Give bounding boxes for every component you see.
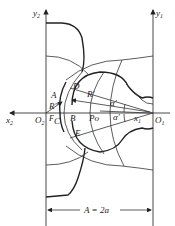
O1-label: O1 — [155, 115, 165, 126]
gear-mesh-diagram: y2 y1 x2 x1 O2 O1 A R″ F C B D E Po R′ α… — [0, 0, 175, 226]
alpha-lower-arc — [124, 114, 125, 122]
x2-label: x2 — [5, 115, 13, 126]
alpha-lower-label: α′ — [113, 112, 121, 122]
ray-O1-E — [70, 113, 153, 138]
dimension-label: A = 2a — [83, 205, 109, 215]
point-A-label: A — [50, 90, 57, 100]
right-small-arc — [126, 84, 153, 104]
y2-label: y2 — [32, 8, 40, 19]
point-C-label: C — [54, 116, 61, 126]
right-gear-upper-arc — [66, 56, 153, 80]
left-gear-upper-tooth — [46, 23, 84, 72]
R-double-prime-label: R″ — [48, 101, 58, 111]
x1-label: x1 — [133, 113, 141, 124]
O2-label: O2 — [35, 115, 45, 126]
y1-label: y1 — [155, 8, 163, 19]
R-prime-label: R′ — [86, 89, 95, 99]
point-D-label: D — [72, 81, 80, 91]
point-Po-label: Po — [88, 113, 99, 123]
alpha-upper-label: α′ — [110, 98, 118, 108]
point-E-label: E — [74, 128, 81, 138]
point-B-label: B — [70, 113, 76, 123]
